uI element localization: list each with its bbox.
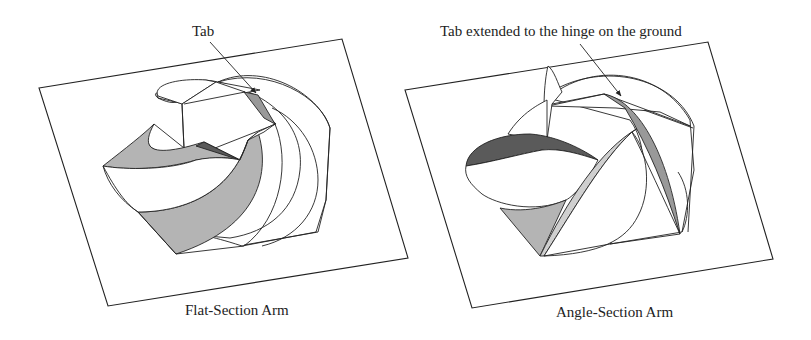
flat-section-caption: Flat-Section Arm (185, 302, 289, 318)
tab-annotation: Tab (192, 23, 214, 39)
angle-section-caption: Angle-Section Arm (556, 304, 673, 320)
figure-canvas: Tab Flat-Section Arm Tab e (0, 0, 811, 340)
tab-extended-annotation: Tab extended to the hinge on the ground (440, 23, 682, 39)
flat-section-figure: Tab Flat-Section Arm (39, 23, 408, 318)
angle-section-figure: Tab extended to the hinge on the ground … (405, 23, 773, 320)
